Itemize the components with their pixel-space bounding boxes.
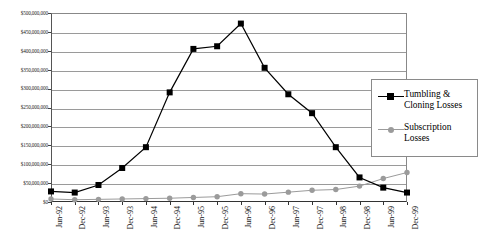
data-point xyxy=(309,188,314,193)
legend-item-tumbling-cloning-losses: Tumbling & Cloning Losses xyxy=(378,89,462,112)
legend-item-subscription-losses: Subscription Losses xyxy=(378,122,451,145)
data-point xyxy=(143,196,148,201)
data-point xyxy=(238,21,244,27)
data-point xyxy=(119,165,125,171)
series-line xyxy=(51,173,407,200)
data-point xyxy=(191,195,196,200)
chart-container: $500,000,000$450,000,000$400,000,000$350… xyxy=(0,0,486,252)
data-point xyxy=(48,196,53,201)
series-tumbling-cloning-losses xyxy=(48,21,410,196)
data-point xyxy=(404,170,409,175)
data-point xyxy=(72,197,77,202)
data-point xyxy=(262,191,267,196)
data-point xyxy=(167,89,173,95)
data-point xyxy=(357,183,362,188)
data-point xyxy=(404,190,410,196)
data-point xyxy=(72,190,78,196)
data-point xyxy=(238,191,243,196)
legend-label-subscription-losses: Subscription Losses xyxy=(404,122,451,145)
legend-label-line1: Subscription xyxy=(404,122,451,132)
data-point xyxy=(309,110,315,116)
data-point xyxy=(167,196,172,201)
legend-label-line1: Tumbling & xyxy=(404,89,450,99)
data-point xyxy=(262,65,268,71)
data-point xyxy=(285,91,291,97)
legend-label-tumbling-cloning-losses: Tumbling & Cloning Losses xyxy=(404,89,462,112)
legend-key-circle-icon xyxy=(378,124,404,134)
data-point xyxy=(143,144,149,150)
data-point xyxy=(190,46,196,52)
data-point xyxy=(95,182,101,188)
data-point xyxy=(96,197,101,202)
legend-label-line2: Losses xyxy=(404,133,430,143)
data-point xyxy=(380,185,386,191)
data-point xyxy=(214,43,220,49)
data-point xyxy=(357,174,363,180)
data-point xyxy=(120,196,125,201)
data-point xyxy=(48,188,54,194)
series-subscription-losses xyxy=(48,170,409,203)
legend-label-line2: Cloning Losses xyxy=(404,100,462,110)
data-point xyxy=(333,144,339,150)
data-point xyxy=(381,176,386,181)
legend-key-square-icon xyxy=(378,91,404,101)
data-point xyxy=(286,189,291,194)
chart-legend: Tumbling & Cloning Losses Subscription L… xyxy=(371,79,478,157)
series-line xyxy=(51,24,407,193)
data-point xyxy=(333,187,338,192)
data-point xyxy=(214,194,219,199)
